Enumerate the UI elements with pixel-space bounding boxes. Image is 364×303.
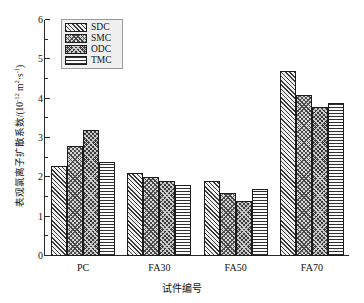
bar-sdc-fa50[interactable]: [204, 181, 220, 256]
bar-group: [280, 20, 344, 256]
bar-tmc-fa30[interactable]: [175, 185, 191, 256]
legend-item-tmc[interactable]: TMC: [65, 55, 119, 66]
bar-tmc-fa50[interactable]: [252, 189, 268, 256]
y-axis-title-exponent: -12: [13, 93, 20, 102]
legend-label: TMC: [91, 56, 112, 66]
bar-sdc-fa70[interactable]: [280, 71, 296, 256]
bar-smc-fa50[interactable]: [220, 193, 236, 256]
y-tick-label: 2: [21, 172, 43, 182]
legend-label: SMC: [91, 34, 111, 44]
legend-label: ODC: [91, 45, 111, 55]
y-tick-label: 3: [21, 133, 43, 143]
bar-tmc-fa70[interactable]: [328, 103, 344, 256]
legend-item-odc[interactable]: ODC: [65, 44, 119, 55]
y-tick-label: 1: [21, 212, 43, 222]
bar-odc-fa30[interactable]: [159, 181, 175, 256]
y-axis-unit-close: ): [15, 65, 25, 68]
legend-swatch-sdc-icon: [65, 23, 87, 32]
bar-tmc-pc[interactable]: [99, 162, 115, 256]
chart-figure: 表观氯离子扩散系数/(10-12 m2·s-1) 0123456 PCFA30F…: [0, 0, 364, 303]
x-tick-label-fa30: FA30: [129, 262, 189, 273]
bar-smc-fa30[interactable]: [143, 177, 159, 256]
legend-swatch-smc-icon: [65, 34, 87, 43]
y-tick-label: 5: [21, 54, 43, 64]
y-axis-title-text: 表观氯离子扩散系数/(10: [15, 102, 25, 207]
chart-legend: SDCSMCODCTMC: [61, 19, 123, 69]
x-tick-label-pc: PC: [53, 262, 113, 273]
legend-swatch-tmc-icon: [65, 56, 87, 65]
legend-label: SDC: [91, 23, 109, 33]
bar-sdc-fa30[interactable]: [127, 173, 143, 256]
x-tick-label-fa50: FA50: [206, 262, 266, 273]
bar-group: [127, 20, 191, 256]
bar-smc-pc[interactable]: [67, 146, 83, 256]
y-axis-unit-s: ·s: [15, 73, 25, 80]
y-tick-label: 4: [21, 94, 43, 104]
bar-odc-fa70[interactable]: [312, 107, 328, 256]
bar-sdc-pc[interactable]: [51, 166, 67, 256]
bar-odc-fa50[interactable]: [236, 201, 252, 256]
legend-swatch-odc-icon: [65, 45, 87, 54]
x-axis-title: 试件编号: [0, 280, 364, 295]
y-tick-label: 0: [21, 251, 43, 261]
legend-item-smc[interactable]: SMC: [65, 33, 119, 44]
bar-group: [204, 20, 268, 256]
legend-item-sdc[interactable]: SDC: [65, 22, 119, 33]
y-tick-label: 6: [21, 15, 43, 25]
x-tick-label-fa70: FA70: [282, 262, 342, 273]
y-axis-unit-m: m: [15, 83, 25, 93]
bar-odc-pc[interactable]: [83, 130, 99, 256]
y-axis-unit-m-exponent: 2: [13, 80, 20, 83]
y-axis-unit-s-exponent: -1: [13, 68, 20, 73]
bar-smc-fa70[interactable]: [296, 95, 312, 256]
